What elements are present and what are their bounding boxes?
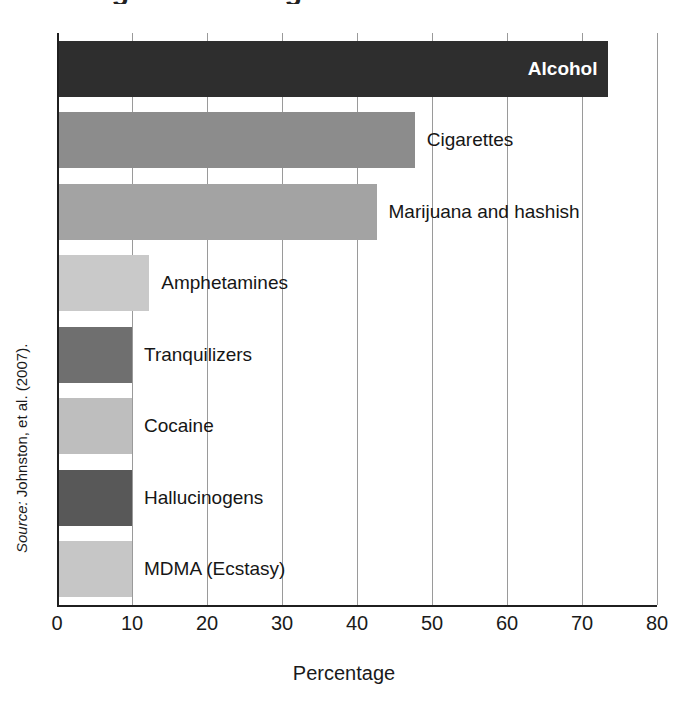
x-tick-label: 0 [51, 612, 62, 635]
bar-row: Alcohol [57, 41, 657, 97]
x-tick-label: 70 [571, 612, 593, 635]
source-text: Johnston, et al. (2007). [13, 344, 30, 502]
bar-label: Hallucinogens [144, 487, 263, 509]
x-axis-line [57, 605, 657, 607]
x-tick-label: 40 [346, 612, 368, 635]
bar [57, 541, 132, 597]
x-tick-label: 80 [646, 612, 668, 635]
x-axis-title: Percentage [0, 662, 688, 685]
bar [57, 184, 377, 240]
x-tick-label: 50 [421, 612, 443, 635]
bar [57, 41, 608, 97]
bar-label: Cigarettes [427, 129, 514, 151]
x-tick-label: 20 [196, 612, 218, 635]
bar-label: Marijuana and hashish [389, 201, 580, 223]
bar [57, 470, 132, 526]
x-tick-label: 10 [121, 612, 143, 635]
bar-label: MDMA (Ecstasy) [144, 558, 285, 580]
plot-area: AlcoholCigarettesMarijuana and hashishAm… [57, 33, 657, 605]
chart-figure: Drug Use Among Source: Johnston, et al. … [0, 0, 688, 725]
bar-row: Marijuana and hashish [57, 184, 657, 240]
bar [57, 327, 132, 383]
bar-row: Cocaine [57, 398, 657, 454]
bar [57, 255, 149, 311]
bar [57, 112, 415, 168]
x-tick-label: 30 [271, 612, 293, 635]
bar-row: Hallucinogens [57, 470, 657, 526]
x-tick-label: 60 [496, 612, 518, 635]
chart-title: Drug Use Among [60, 0, 480, 4]
y-axis-line [57, 33, 59, 607]
bar-row: MDMA (Ecstasy) [57, 541, 657, 597]
bar-label: Amphetamines [161, 272, 288, 294]
bar-row: Cigarettes [57, 112, 657, 168]
bar-label: Tranquilizers [144, 344, 252, 366]
source-note: Source: Johnston, et al. (2007). [13, 333, 35, 553]
source-label: Source: [13, 501, 30, 553]
bar-label: Alcohol [528, 58, 598, 80]
gridline [657, 33, 658, 605]
bar-row: Tranquilizers [57, 327, 657, 383]
bar-row: Amphetamines [57, 255, 657, 311]
bar [57, 398, 132, 454]
bar-label: Cocaine [144, 415, 214, 437]
